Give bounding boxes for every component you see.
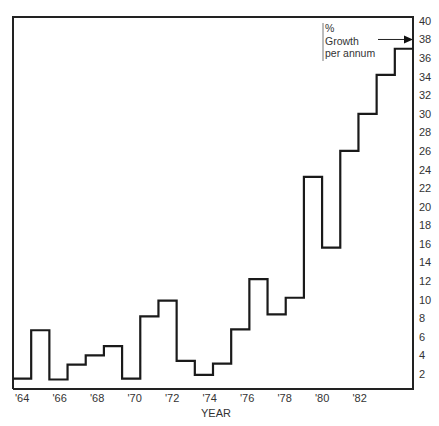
y-tick-label: 30 bbox=[419, 108, 431, 120]
y-tick-label: 18 bbox=[419, 219, 431, 231]
y-tick-label: 26 bbox=[419, 145, 431, 157]
y-tick-label: 28 bbox=[419, 126, 431, 138]
annotation-text: per annum bbox=[325, 47, 375, 59]
y-tick-label: 40 bbox=[419, 15, 431, 27]
annotation-text: % bbox=[325, 22, 334, 34]
plot-frame bbox=[13, 17, 413, 389]
x-tick-label: '76 bbox=[240, 392, 254, 404]
y-tick-label: 16 bbox=[419, 238, 431, 250]
growth-step-line bbox=[13, 49, 413, 380]
x-tick-label: '70 bbox=[128, 392, 142, 404]
y-tick-label: 32 bbox=[419, 89, 431, 101]
x-tick-label: '80 bbox=[315, 392, 329, 404]
x-axis-label: YEAR bbox=[201, 407, 231, 419]
x-tick-label: '78 bbox=[278, 392, 292, 404]
y-tick-label: 24 bbox=[419, 164, 431, 176]
y-tick-label: 4 bbox=[419, 349, 425, 361]
arrow-head-icon bbox=[404, 35, 413, 43]
x-tick-label: '66 bbox=[53, 392, 67, 404]
y-tick-label: 22 bbox=[419, 182, 431, 194]
y-tick-label: 2 bbox=[419, 368, 425, 380]
y-tick-label: 10 bbox=[419, 294, 431, 306]
y-tick-label: 38 bbox=[419, 33, 431, 45]
x-tick-label: '72 bbox=[165, 392, 179, 404]
x-tick-label: '64 bbox=[15, 392, 29, 404]
y-tick-label: 12 bbox=[419, 275, 431, 287]
y-tick-label: 20 bbox=[419, 201, 431, 213]
x-tick-label: '74 bbox=[203, 392, 217, 404]
x-tick-label: '82 bbox=[353, 392, 367, 404]
y-tick-label: 34 bbox=[419, 71, 431, 83]
y-tick-label: 36 bbox=[419, 52, 431, 64]
annotation-text: Growth bbox=[325, 35, 359, 47]
growth-step-chart: 246810121416182022242628303234363840'64'… bbox=[0, 0, 439, 426]
y-tick-label: 8 bbox=[419, 312, 425, 324]
y-tick-label: 14 bbox=[419, 256, 431, 268]
y-tick-label: 6 bbox=[419, 331, 425, 343]
x-tick-label: '68 bbox=[90, 392, 104, 404]
